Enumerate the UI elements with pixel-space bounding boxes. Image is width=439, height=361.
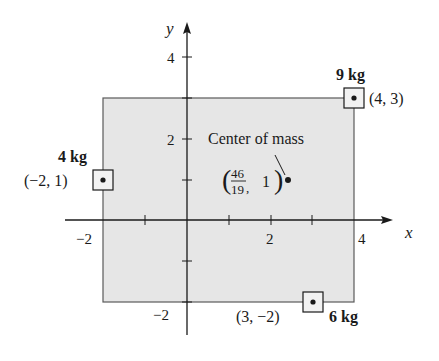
x-tick-label: 4 — [358, 231, 366, 247]
x-tick-label: 2 — [266, 231, 274, 247]
coord-label: (−2, 1) — [24, 172, 68, 190]
fraction-denominator: 19 — [231, 182, 244, 197]
x-tick-label: −2 — [76, 231, 92, 247]
center-of-mass-dot-icon — [285, 177, 291, 183]
center-of-mass-label: Center of mass — [208, 130, 304, 147]
y-tick-label: 4 — [167, 50, 175, 66]
y-tick-label: −2 — [153, 307, 169, 323]
x-axis-label: x — [404, 223, 413, 242]
point-dot-icon — [351, 95, 356, 100]
y-tick-label: 2 — [167, 132, 175, 148]
center-of-mass-diagram: x y −2 2 4 4 2 −2 4 kg (−2, 1) 9 kg (4, … — [0, 0, 439, 361]
mass-9kg: 9 kg (4, 3) — [336, 66, 404, 108]
open-paren: ( — [222, 164, 231, 195]
close-paren: ) — [274, 164, 283, 195]
center-y-value: 1 — [262, 173, 270, 190]
mass-4kg: 4 kg (−2, 1) — [24, 148, 113, 190]
mass-label: 4 kg — [58, 148, 87, 166]
comma: , — [246, 180, 249, 195]
mass-label: 6 kg — [329, 308, 358, 326]
point-dot-icon — [100, 177, 105, 182]
shaded-region — [103, 98, 354, 302]
coord-label: (4, 3) — [369, 90, 404, 108]
mass-label: 9 kg — [336, 66, 365, 84]
fraction-numerator: 46 — [231, 166, 245, 181]
coord-label: (3, −2) — [236, 308, 280, 326]
y-axis-label: y — [164, 19, 174, 38]
point-dot-icon — [310, 299, 315, 304]
